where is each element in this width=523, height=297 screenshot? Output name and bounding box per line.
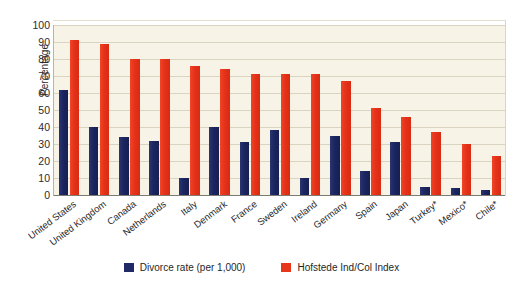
bar: [431, 132, 441, 195]
bar: [160, 59, 170, 195]
legend-item[interactable]: Divorce rate (per 1,000): [124, 262, 246, 273]
x-axis-label-denmark: Denmark: [143, 199, 229, 267]
x-axis-label-netherlands: Netherlands: [83, 199, 169, 267]
bar: [481, 190, 491, 195]
bar-group: [205, 25, 235, 195]
gridline-0: [54, 195, 506, 196]
bar-group: [265, 25, 295, 195]
bar: [119, 137, 129, 195]
bar: [300, 178, 310, 195]
legend-label: Hofstede Ind/Col Index: [297, 262, 399, 273]
bar-group: [325, 25, 355, 195]
bar-group: [446, 25, 476, 195]
bar: [360, 171, 370, 195]
bar: [401, 117, 411, 195]
y-axis-tick-20: 20: [20, 156, 50, 166]
bar: [371, 108, 381, 195]
y-axis-tick-10: 10: [20, 173, 50, 183]
x-axis-label-chile: Chile*: [414, 199, 500, 267]
legend-swatch-blue: [124, 263, 134, 272]
bar: [420, 187, 430, 196]
bar: [190, 66, 200, 195]
x-axis-label-sweden: Sweden: [203, 199, 289, 267]
y-axis-tick-60: 60: [20, 88, 50, 98]
y-axis-tick-40: 40: [20, 122, 50, 132]
bar-group: [355, 25, 385, 195]
x-axis-label-unitedstates: United States: [0, 199, 78, 267]
x-axis-label-spain: Spain: [294, 199, 380, 267]
bar-group: [84, 25, 114, 195]
bar: [390, 142, 400, 195]
bar-group: [385, 25, 415, 195]
x-axis-label-mexico: Mexico*: [384, 199, 470, 267]
y-axis-tick-50: 50: [20, 105, 50, 115]
bar: [451, 188, 461, 195]
bar: [70, 40, 80, 195]
x-axis-label-germany: Germany: [263, 199, 349, 267]
bar-group: [144, 25, 174, 195]
y-axis-tick-70: 70: [20, 71, 50, 81]
y-axis-tick-labels: 1009080706050403020100: [20, 18, 50, 198]
bar-group: [175, 25, 205, 195]
plot-area: [53, 25, 506, 196]
bar: [341, 81, 351, 195]
legend-swatch-red: [281, 263, 291, 272]
legend-label: Divorce rate (per 1,000): [140, 262, 246, 273]
bar: [179, 178, 189, 195]
bar: [59, 90, 69, 195]
bar: [270, 130, 280, 195]
bar-chart: Percentage 1009080706050403020100 United…: [0, 0, 523, 297]
bar-group: [476, 25, 506, 195]
x-axis-label-unitedkingdom: United Kingdom: [22, 199, 108, 267]
chart-legend: Divorce rate (per 1,000)Hofstede Ind/Col…: [0, 262, 523, 273]
bar: [100, 44, 110, 195]
bar: [251, 74, 261, 195]
bar-group: [114, 25, 144, 195]
x-axis-label-ireland: Ireland: [233, 199, 319, 267]
bar: [281, 74, 291, 195]
bars-layer: [54, 25, 506, 195]
x-axis-label-france: France: [173, 199, 259, 267]
bar: [220, 69, 230, 195]
bar: [311, 74, 321, 195]
bar-group: [235, 25, 265, 195]
y-axis-tick-100: 100: [20, 20, 50, 30]
y-axis-tick-90: 90: [20, 37, 50, 47]
y-axis-tick-0: 0: [20, 190, 50, 200]
bar: [209, 127, 219, 195]
bar-group: [295, 25, 325, 195]
bar: [149, 141, 159, 195]
bar: [330, 136, 340, 196]
y-axis-tick-30: 30: [20, 139, 50, 149]
bar: [462, 144, 472, 195]
bar: [240, 142, 250, 195]
x-axis-label-turkey: Turkey*: [354, 199, 440, 267]
bar-group: [416, 25, 446, 195]
x-axis-label-japan: Japan: [324, 199, 410, 267]
bar-group: [54, 25, 84, 195]
legend-item[interactable]: Hofstede Ind/Col Index: [281, 262, 399, 273]
x-axis-label-italy: Italy: [113, 199, 199, 267]
bar: [492, 156, 502, 195]
x-axis-label-canada: Canada: [52, 199, 138, 267]
y-axis-tick-80: 80: [20, 54, 50, 64]
bar: [130, 59, 140, 195]
bar: [89, 127, 99, 195]
